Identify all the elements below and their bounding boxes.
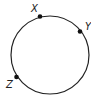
circle (11, 16, 89, 94)
circle-diagram: X Y Z (0, 0, 91, 98)
point-x (38, 14, 43, 19)
point-y (78, 29, 83, 34)
point-z (14, 75, 19, 80)
label-y: Y (85, 21, 91, 32)
label-z: Z (5, 79, 14, 90)
label-x: X (30, 3, 39, 14)
